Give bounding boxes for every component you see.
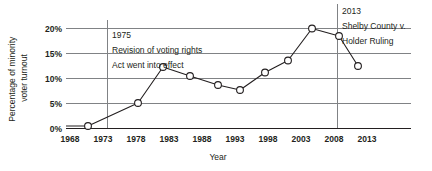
data-series-minority-turnout [66,25,361,129]
data-point [187,73,194,80]
annotation-1975-line-2: Revision of voting rights [112,45,202,55]
y-tick-label: 10% [45,74,62,84]
chart-canvas: 20% 15% 10% 5% 0% 1968 1973 1978 1983 19… [0,0,432,171]
x-tick-label: 1973 [94,134,113,144]
x-axis-title: Year [209,152,226,162]
y-axis-tick-labels: 20% 15% 10% 5% 0% [45,24,62,134]
data-point [309,25,316,32]
x-tick-label: 1978 [127,134,146,144]
x-tick-label: 1993 [226,134,245,144]
annotation-1975: 1975 Revision of voting rights Act went … [112,30,202,70]
y-tick-label: 5% [50,99,63,109]
x-tick-label: 1968 [61,134,80,144]
x-tick-label: 1988 [193,134,212,144]
y-tick-label: 20% [45,24,62,34]
x-tick-label: 1998 [259,134,278,144]
series-polyline [66,29,358,127]
data-point [355,63,362,70]
data-point [285,57,292,64]
annotation-2013-line-2: Shelby County v. [342,21,406,31]
x-tick-label: 1983 [160,134,179,144]
data-point [262,69,269,76]
annotation-2013-line-1: 2013 [342,6,361,16]
annotation-2013: 2013 Shelby County v. Holder Ruling [342,6,406,46]
y-axis-title-line-1: Percentage of minority [7,36,17,122]
x-tick-label: 2013 [358,134,377,144]
data-point [237,87,244,94]
x-axis-tick-labels: 1968 1973 1978 1983 1988 1993 1998 2003 … [61,134,377,144]
x-tick-label: 2008 [325,134,344,144]
data-point [215,82,222,89]
voter-turnout-line-chart: 20% 15% 10% 5% 0% 1968 1973 1978 1983 19… [0,0,432,171]
y-axis-title: Percentage of minority voter turnout [7,34,29,121]
annotation-2013-line-3: Holder Ruling [342,36,394,46]
data-point [85,123,92,130]
annotation-1975-line-1: 1975 [112,30,131,40]
x-tick-label: 2003 [292,134,311,144]
data-point [135,100,142,107]
y-tick-label: 15% [45,49,62,59]
y-tick-label: 0% [50,124,63,134]
annotation-1975-line-3: Act went into effect [112,60,184,70]
y-axis-title-line-2: voter turnout [19,54,29,102]
